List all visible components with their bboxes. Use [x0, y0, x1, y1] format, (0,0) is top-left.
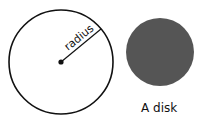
disk-label: A disk [141, 101, 177, 115]
disk [126, 18, 194, 86]
center-point [58, 59, 63, 64]
diagram-canvas: radius [0, 0, 215, 123]
